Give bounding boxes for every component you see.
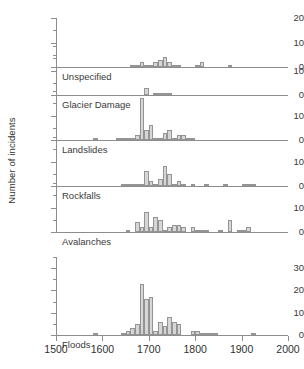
x-tick-label: 2000 bbox=[268, 343, 304, 355]
x-tick-label: 1500 bbox=[36, 343, 76, 355]
x-tick-label: 1700 bbox=[129, 343, 169, 355]
x-tick bbox=[195, 336, 196, 341]
histogram-figure: Number of incidents 01020Unspecified010G… bbox=[0, 0, 304, 369]
x-axis-line bbox=[56, 335, 288, 336]
x-tick bbox=[56, 336, 57, 341]
panel-bars bbox=[0, 0, 304, 335]
x-tick bbox=[102, 336, 103, 341]
x-tick bbox=[242, 336, 243, 341]
histogram-bar bbox=[149, 297, 154, 335]
histogram-bar bbox=[177, 324, 182, 335]
x-tick-label: 1900 bbox=[222, 343, 262, 355]
x-tick-label: 1800 bbox=[175, 343, 215, 355]
x-tick bbox=[288, 336, 289, 341]
x-tick-label: 1600 bbox=[82, 343, 122, 355]
x-tick bbox=[149, 336, 150, 341]
